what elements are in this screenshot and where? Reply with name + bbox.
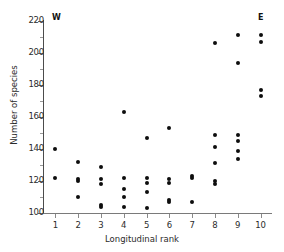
data-point	[259, 33, 263, 37]
data-point	[145, 181, 149, 185]
x-tick	[261, 214, 262, 218]
data-point	[53, 147, 57, 151]
x-tick	[78, 214, 79, 218]
data-point	[122, 187, 126, 191]
data-point	[213, 133, 217, 137]
y-tick-minor	[40, 69, 43, 70]
y-tick-label: 120	[14, 175, 44, 185]
x-tick-label: 10	[251, 220, 271, 230]
data-point	[99, 177, 103, 181]
x-tick	[169, 214, 170, 218]
data-point	[190, 200, 194, 204]
data-point	[167, 200, 171, 204]
x-tick-label: 5	[137, 220, 157, 230]
data-point	[122, 110, 126, 114]
x-tick-label: 9	[228, 220, 248, 230]
data-point	[167, 181, 171, 185]
data-point	[53, 176, 57, 180]
data-point	[122, 205, 126, 209]
data-point	[236, 61, 240, 65]
data-point	[236, 133, 240, 137]
x-tick	[215, 214, 216, 218]
data-point	[213, 182, 217, 186]
x-tick-label: 6	[159, 220, 179, 230]
data-point	[145, 206, 149, 210]
x-tick-label: 7	[182, 220, 202, 230]
y-tick-label: 220	[14, 15, 44, 25]
data-point	[145, 176, 149, 180]
data-point	[145, 136, 149, 140]
data-point	[213, 41, 217, 45]
x-tick-label: 1	[45, 220, 65, 230]
data-point	[99, 165, 103, 169]
x-tick-label: 8	[205, 220, 225, 230]
data-point	[145, 190, 149, 194]
data-point	[76, 195, 80, 199]
plot-area	[44, 21, 272, 213]
x-tick	[147, 214, 148, 218]
y-axis-label: Number of species	[9, 45, 19, 165]
data-point	[213, 161, 217, 165]
x-tick	[55, 214, 56, 218]
x-tick	[192, 214, 193, 218]
y-tick-minor	[40, 165, 43, 166]
data-point	[122, 195, 126, 199]
east-annotation: E	[258, 13, 263, 22]
x-axis-label: Longitudinal rank	[0, 234, 284, 244]
data-point	[99, 205, 103, 209]
data-point	[236, 157, 240, 161]
x-tick	[124, 214, 125, 218]
y-tick-minor	[40, 197, 43, 198]
data-point	[259, 88, 263, 92]
data-point	[76, 160, 80, 164]
x-tick	[238, 214, 239, 218]
data-point	[190, 176, 194, 180]
x-tick-label: 3	[91, 220, 111, 230]
x-tick-label: 2	[68, 220, 88, 230]
x-tick	[101, 214, 102, 218]
data-point	[236, 149, 240, 153]
data-point	[236, 139, 240, 143]
y-tick-label: 100	[14, 207, 44, 217]
y-tick-minor	[40, 37, 43, 38]
species-longitudinal-scatter-figure: 100120140160180200220 12345678910 W E Lo…	[0, 0, 284, 252]
x-tick-label: 4	[114, 220, 134, 230]
data-point	[213, 145, 217, 149]
data-point	[122, 176, 126, 180]
y-tick-minor	[40, 101, 43, 102]
data-point	[167, 126, 171, 130]
data-point	[259, 40, 263, 44]
west-annotation: W	[52, 13, 61, 22]
data-point	[259, 94, 263, 98]
data-point	[236, 33, 240, 37]
data-point	[99, 182, 103, 186]
data-point	[76, 179, 80, 183]
y-tick-minor	[40, 133, 43, 134]
